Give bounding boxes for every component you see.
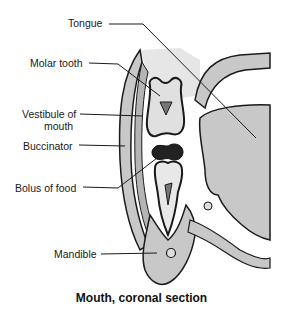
mandibular-canal: [167, 249, 176, 258]
leader-molar: [89, 63, 118, 64]
figure-caption: Mouth, coronal section: [0, 291, 283, 305]
leader-bolus: [83, 187, 118, 188]
salivary-gland: [204, 202, 212, 210]
label-molar-tooth: Molar tooth: [30, 57, 83, 69]
bolus: [152, 144, 183, 160]
label-bolus: Bolus of food: [15, 182, 76, 194]
mouth-coronal-section-illustration: [0, 0, 283, 311]
label-vestibule-line2: mouth: [44, 120, 73, 132]
leader-buccinator: [79, 145, 125, 146]
label-tongue: Tongue: [68, 17, 102, 29]
label-vestibule-line1: Vestibule of: [22, 108, 76, 120]
tongue-body: [200, 105, 270, 240]
label-buccinator: Buccinator: [23, 140, 73, 152]
label-mandible: Mandible: [54, 248, 97, 260]
leader-vestibule: [80, 114, 143, 116]
palate-band: [195, 53, 270, 108]
